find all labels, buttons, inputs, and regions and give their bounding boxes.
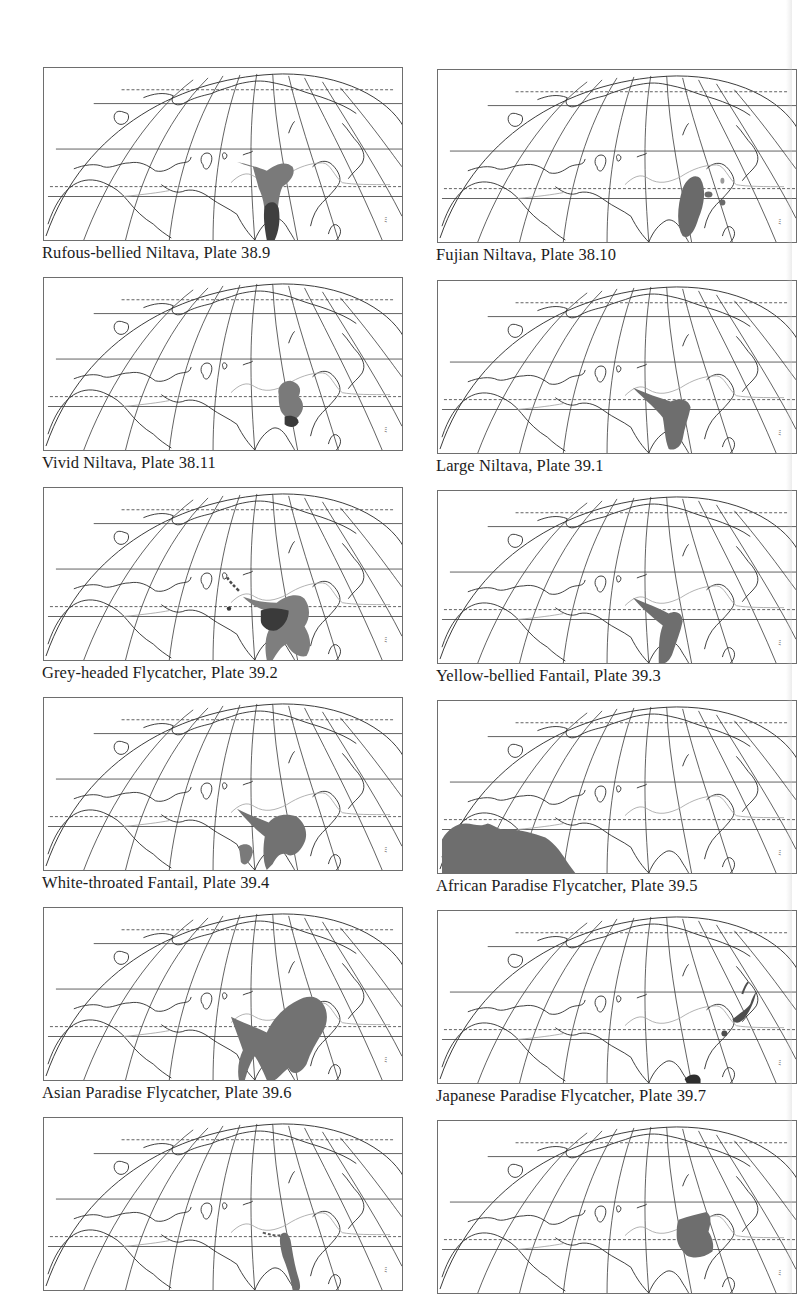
map-caption: White-throated Fantail, Plate 39.4 bbox=[42, 873, 269, 893]
distribution-map bbox=[43, 277, 403, 451]
distribution-map bbox=[43, 1117, 403, 1291]
map-caption: Large Niltava, Plate 39.1 bbox=[436, 456, 604, 476]
map-caption: Asian Paradise Flycatcher, Plate 39.6 bbox=[42, 1083, 292, 1103]
map-caption: African Paradise Flycatcher, Plate 39.5 bbox=[436, 876, 698, 896]
map-caption: Fujian Niltava, Plate 38.10 bbox=[436, 245, 616, 265]
distribution-map bbox=[437, 1120, 797, 1294]
map-caption: Vivid Niltava, Plate 38.11 bbox=[42, 453, 216, 473]
distribution-map bbox=[437, 910, 797, 1084]
map-caption: Rufous-bellied Niltava, Plate 38.9 bbox=[42, 243, 270, 263]
map-caption: Grey-headed Flycatcher, Plate 39.2 bbox=[42, 663, 278, 683]
map-caption: Yellow-bellied Fantail, Plate 39.3 bbox=[436, 666, 661, 686]
map-caption: Japanese Paradise Flycatcher, Plate 39.7 bbox=[436, 1086, 706, 1106]
page-edge-shadow bbox=[786, 0, 792, 1294]
distribution-map bbox=[437, 280, 797, 454]
distribution-map bbox=[43, 907, 403, 1081]
distribution-map bbox=[437, 490, 797, 664]
distribution-map bbox=[43, 697, 403, 871]
distribution-map bbox=[437, 700, 797, 874]
distribution-map bbox=[43, 487, 403, 661]
distribution-map bbox=[437, 69, 797, 243]
distribution-map bbox=[43, 67, 403, 241]
